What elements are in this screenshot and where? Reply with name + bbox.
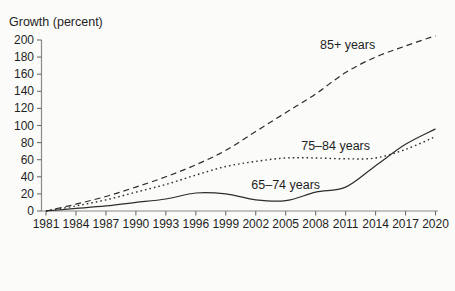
axes-lines — [42, 40, 439, 211]
aging-population-growth-chart: Growth (percent)020406080100120140160180… — [0, 0, 455, 248]
y-tick-label: 40 — [21, 170, 35, 184]
figure-caption: Figure 1.1 Historical and projected grow… — [0, 253, 455, 291]
y-tick-label: 80 — [21, 136, 35, 150]
series-line-65-74 — [46, 129, 436, 211]
y-tick-label: 180 — [14, 50, 34, 64]
x-tick-label: 1981 — [33, 217, 60, 231]
series-line-75-84 — [46, 137, 436, 211]
x-tick-label: 2005 — [272, 217, 299, 231]
series-label-65-74: 65–74 years — [251, 178, 320, 192]
x-tick-label: 1996 — [182, 217, 209, 231]
y-tick-label: 0 — [27, 204, 34, 218]
x-tick-label: 2017 — [392, 217, 419, 231]
y-tick-label: 200 — [14, 33, 34, 47]
x-tick-label: 1999 — [212, 217, 239, 231]
y-tick-label: 20 — [21, 187, 35, 201]
x-tick-label: 2020 — [422, 217, 449, 231]
series-label-75-84: 75–84 years — [301, 139, 370, 153]
y-tick-label: 100 — [14, 119, 34, 133]
y-tick-label: 140 — [14, 84, 34, 98]
y-tick-label: 60 — [21, 153, 35, 167]
x-tick-label: 2011 — [333, 217, 359, 231]
series-label-85plus: 85+ years — [320, 38, 375, 52]
x-tick-label: 2002 — [242, 217, 269, 231]
x-tick-label: 2014 — [362, 217, 389, 231]
x-tick-label: 2008 — [302, 217, 329, 231]
x-tick-label: 1993 — [152, 217, 179, 231]
series-line-85plus — [46, 36, 436, 211]
x-tick-label: 1990 — [123, 217, 150, 231]
x-tick-label: 1984 — [63, 217, 90, 231]
y-tick-label: 160 — [14, 67, 34, 81]
figure-1-1: Growth (percent)020406080100120140160180… — [0, 0, 455, 291]
y-axis-title: Growth (percent) — [9, 15, 103, 29]
y-tick-label: 120 — [14, 101, 34, 115]
x-tick-label: 1987 — [93, 217, 120, 231]
